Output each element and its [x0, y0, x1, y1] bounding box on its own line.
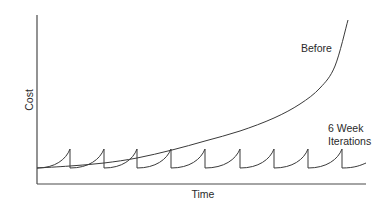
y-axis-label: Cost: [23, 89, 35, 111]
iterations-sawtooth: [37, 149, 366, 168]
iterations-label-line2: Iterations: [328, 135, 371, 147]
cost-over-time-chart: Cost Time Before 6 Week Iterations: [0, 0, 390, 209]
before-label: Before: [301, 42, 332, 54]
iterations-label-line1: 6 Week: [328, 122, 364, 134]
x-axis-label: Time: [192, 188, 215, 200]
